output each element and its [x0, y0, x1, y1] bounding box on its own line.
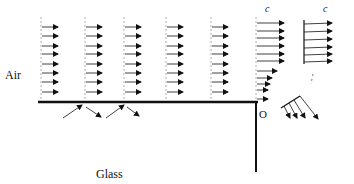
speed-label-left: c [265, 3, 269, 14]
uniform-flow-columns [41, 17, 228, 101]
origin-label: O [259, 108, 267, 120]
dash-mark [311, 74, 313, 84]
diagram-canvas: Air Glass O c c [0, 0, 354, 184]
speed-label-right: c [323, 3, 327, 14]
reflection-arrows [63, 105, 139, 118]
right-velocity-profile [304, 20, 332, 64]
corner-velocity-profile [256, 17, 284, 101]
diffracted-wavefront [281, 96, 318, 119]
air-label: Air [5, 68, 21, 83]
flow-diagram [0, 0, 354, 184]
glass-label: Glass [96, 167, 123, 182]
